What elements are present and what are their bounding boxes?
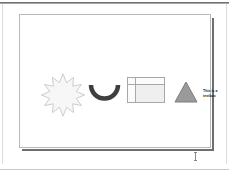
window-top-divider [0, 2, 229, 4]
slide-shadow-bottom [22, 149, 214, 151]
table-header-divider [128, 84, 164, 85]
table-shape[interactable] [127, 77, 165, 103]
table-body-fill [136, 85, 164, 102]
window-bottom-divider [0, 169, 229, 170]
slide-shadow-right [212, 18, 214, 150]
arc-icon [88, 83, 121, 110]
triangle-icon [174, 81, 198, 103]
triangle-shape[interactable] [174, 81, 198, 103]
window-left-divider [2, 4, 3, 164]
application-window: This is a textbox [0, 0, 229, 173]
explosion-star-shape[interactable] [41, 73, 85, 117]
star-burst-icon [41, 73, 85, 117]
arc-shape[interactable] [88, 83, 121, 110]
text-box-shape[interactable]: This is a textbox [203, 89, 229, 101]
mouse-cursor-ibeam [193, 152, 198, 161]
window-right-divider [226, 4, 227, 164]
slide-canvas[interactable]: This is a textbox [19, 14, 211, 148]
text-cursor-icon [193, 152, 198, 161]
table-column-divider [135, 78, 136, 102]
